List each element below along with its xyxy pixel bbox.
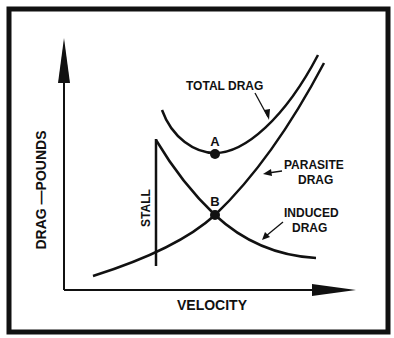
point-b-label: B (210, 194, 219, 209)
point-a-label: A (210, 134, 220, 149)
point-b-marker (210, 210, 220, 220)
y-axis-arrowhead (58, 38, 70, 83)
total-drag-leader-arrowhead (264, 109, 270, 120)
induced-drag-leader (266, 222, 283, 236)
parasite-drag-label-line2: DRAG (298, 173, 333, 187)
induced-drag-label-line2: DRAG (292, 221, 327, 235)
x-axis-arrowhead (312, 284, 356, 296)
stall-label: STALL (139, 189, 153, 227)
parasite-drag-label-line1: PARASITE (284, 158, 344, 172)
induced-drag-label-line1: INDUCED (284, 206, 339, 220)
y-axis-label: DRAG —POUNDS (33, 130, 49, 249)
total-drag-label: TOTAL DRAG (186, 79, 263, 93)
parasite-drag-leader-arrowhead (263, 169, 272, 176)
total-drag-curve (162, 55, 318, 153)
drag-vs-velocity-diagram: VELOCITY DRAG —POUNDS STALL A B TOTAL DR… (0, 0, 394, 338)
x-axis-label: VELOCITY (177, 297, 248, 313)
point-a-marker (210, 149, 220, 159)
